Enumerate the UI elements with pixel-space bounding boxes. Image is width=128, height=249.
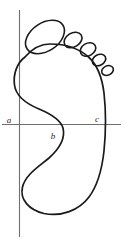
sole-outline xyxy=(14,44,105,214)
label-b: b xyxy=(51,131,56,141)
label-a: a xyxy=(7,115,12,125)
footprint-figure: a b c xyxy=(0,0,128,249)
label-c: c xyxy=(95,114,99,124)
fifth-toe-outline xyxy=(100,64,115,78)
footprint-diagram-canvas: a b c xyxy=(0,0,128,249)
